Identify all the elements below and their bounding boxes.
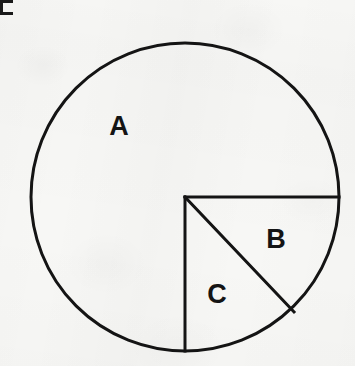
region-label-b: B	[266, 226, 286, 253]
region-label-a: A	[109, 113, 129, 140]
diagonal-chord-line	[185, 197, 294, 312]
figure-page: A B C	[0, 0, 355, 366]
region-label-c: C	[207, 281, 227, 308]
circle-diagram	[0, 0, 355, 366]
